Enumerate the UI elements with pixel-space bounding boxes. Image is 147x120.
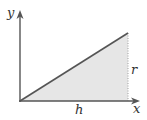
base-label-h: h bbox=[75, 102, 83, 117]
x-axis-label: x bbox=[133, 101, 141, 116]
triangle-diagram: y x r h bbox=[0, 0, 147, 120]
height-label-r: r bbox=[131, 62, 138, 77]
y-axis-label: y bbox=[6, 5, 15, 20]
